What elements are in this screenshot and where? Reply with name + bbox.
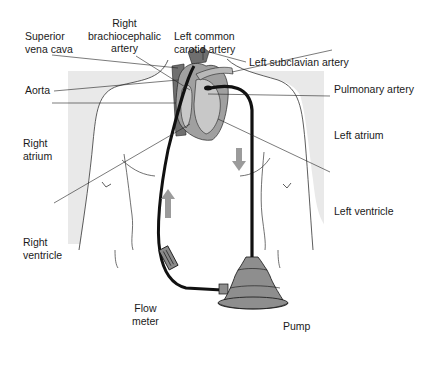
- label-left-atrium: Left atrium: [334, 129, 384, 142]
- diagram-canvas: [0, 0, 432, 367]
- label-pulmonary-artery: Pulmonary artery: [334, 83, 414, 96]
- label-right-brachiocephalic-artery: Right brachiocephalic artery: [88, 17, 161, 55]
- label-left-ventricle: Left ventricle: [334, 205, 394, 218]
- label-flow-meter: Flow meter: [132, 302, 159, 327]
- label-left-subclavian-artery: Left subclavian artery: [249, 56, 349, 69]
- label-right-atrium: Right atrium: [23, 137, 52, 162]
- label-right-ventricle: Right ventricle: [23, 236, 62, 261]
- label-aorta: Aorta: [25, 84, 50, 97]
- label-pump: Pump: [283, 320, 310, 333]
- pump: [218, 257, 288, 309]
- label-superior-vena-cava: Superior vena cava: [25, 30, 73, 55]
- label-left-common-carotid-artery: Left common carotid artery: [174, 30, 235, 55]
